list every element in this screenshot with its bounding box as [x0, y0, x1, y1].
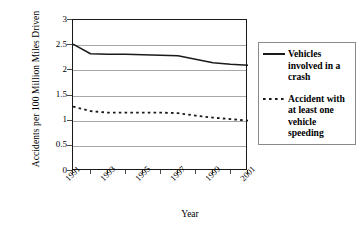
- y-axis-tick-label: 0.5: [27, 140, 67, 149]
- x-axis-tick-mark: [195, 170, 196, 174]
- series-line-2: [73, 107, 248, 121]
- plot-area: [72, 19, 247, 170]
- legend-entry: Vehicles involved in a crash: [263, 48, 352, 83]
- series-layer: [73, 20, 248, 171]
- solid-line-swatch: [263, 48, 285, 59]
- x-axis-tick-mark: [230, 170, 231, 174]
- series-line-1: [73, 44, 248, 65]
- chart-figure: Accidents per 100 Million Miles Driven 0…: [0, 0, 364, 235]
- y-axis-tick-label: 2.5: [27, 40, 67, 49]
- y-axis-tick-label: 1.5: [27, 90, 67, 99]
- y-axis-tick-label: 3: [27, 15, 67, 24]
- legend-label: Accident with at least one vehicle speed…: [288, 93, 352, 139]
- legend-label: Vehicles involved in a crash: [288, 48, 352, 83]
- x-axis-tick-mark: [160, 170, 161, 174]
- x-axis-tick-mark: [125, 170, 126, 174]
- x-axis-tick-mark: [90, 170, 91, 174]
- dashed-line-swatch: [263, 93, 285, 104]
- x-axis-title: Year: [150, 209, 230, 219]
- y-axis-tick-label: 0: [27, 166, 67, 175]
- legend-entry: Accident with at least one vehicle speed…: [263, 93, 352, 139]
- legend: Vehicles involved in a crashAccident wit…: [258, 42, 356, 145]
- y-axis-tick-label: 2: [27, 65, 67, 74]
- y-axis-tick-label: 1: [27, 115, 67, 124]
